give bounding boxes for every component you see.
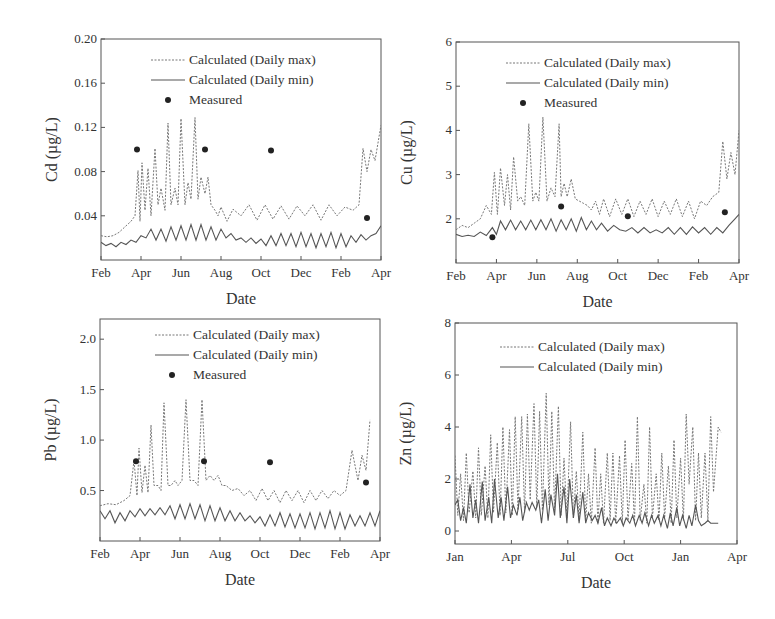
- legend-label: Measured: [193, 367, 246, 382]
- measured-point: [558, 203, 564, 209]
- y-tick-label: 2: [445, 471, 452, 486]
- y-tick-label: 2: [446, 211, 453, 226]
- legend-item: Calculated (Daily min): [151, 72, 313, 87]
- legend-label: Calculated (Daily min): [538, 359, 662, 374]
- x-tick-label: Dec: [291, 265, 312, 280]
- x-tick-label: Apr: [371, 265, 392, 280]
- x-tick-label: Apr: [131, 265, 152, 280]
- y-tick-label: 5: [446, 78, 453, 93]
- y-tick-label: 8: [445, 315, 452, 330]
- legend-item: Calculated (Daily max): [155, 327, 320, 342]
- measured-point: [268, 148, 274, 154]
- x-tick-label: Dec: [290, 546, 311, 561]
- x-tick-label: Apr: [501, 549, 522, 564]
- legend-label: Calculated (Daily max): [544, 55, 671, 70]
- y-tick-label: 6: [445, 367, 452, 382]
- x-tick-label: Aug: [209, 546, 232, 561]
- x-tick-label: Jun: [171, 546, 190, 561]
- legend-item: Calculated (Daily min): [155, 347, 317, 362]
- measured-point: [134, 147, 140, 153]
- x-tick-label: Oct: [252, 265, 271, 280]
- x-tick-label: Feb: [689, 268, 709, 283]
- y-tick-label: 4: [445, 419, 452, 434]
- y-tick-label: 2.0: [80, 331, 96, 346]
- x-tick-label: Feb: [330, 546, 350, 561]
- measured-point: [364, 215, 370, 221]
- legend-item: Measured: [169, 367, 246, 382]
- x-tick-label: Jun: [172, 265, 191, 280]
- x-tick-label: Feb: [331, 265, 351, 280]
- legend-item: Measured: [520, 95, 597, 110]
- legend-label: Calculated (Daily max): [538, 339, 665, 354]
- legend-item: Measured: [165, 92, 242, 107]
- x-tick-label: Jan: [446, 549, 464, 564]
- y-tick-label: 6: [446, 34, 453, 49]
- y-axis-label: Zn (µg/L): [397, 402, 415, 466]
- y-tick-label: 4: [446, 122, 453, 137]
- measured-point: [722, 209, 728, 215]
- x-tick-label: Apr: [370, 546, 391, 561]
- x-tick-label: Oct: [608, 268, 627, 283]
- x-tick-label: Aug: [210, 265, 233, 280]
- legend-item: Calculated (Daily min): [506, 75, 668, 90]
- measured-point: [363, 479, 369, 485]
- daily-max-line: [100, 400, 370, 506]
- x-tick-label: Apr: [727, 549, 748, 564]
- x-tick-label: Oct: [615, 549, 634, 564]
- y-tick-label: 0.12: [74, 119, 97, 134]
- legend-label: Calculated (Daily min): [544, 75, 668, 90]
- y-tick-label: 1.0: [80, 432, 96, 447]
- legend-label: Calculated (Daily max): [193, 327, 320, 342]
- legend-label: Measured: [189, 92, 242, 107]
- legend-label: Measured: [544, 95, 597, 110]
- daily-max-line: [456, 117, 739, 230]
- x-axis-label: Date: [581, 574, 611, 591]
- y-tick-label: 3: [446, 167, 453, 182]
- legend-item: Calculated (Daily max): [506, 55, 671, 70]
- y-tick-label: 1.5: [80, 382, 96, 397]
- measured-point: [267, 459, 273, 465]
- x-tick-label: Apr: [486, 268, 507, 283]
- x-tick-label: Jun: [528, 268, 547, 283]
- measured-point: [133, 458, 139, 464]
- y-tick-label: 0.04: [74, 208, 97, 223]
- daily-max-line: [455, 393, 721, 523]
- chart-cu: 23456FebAprJunAugOctDecFebAprDateCu (µg/…: [398, 34, 750, 310]
- daily-min-line: [100, 504, 380, 529]
- legend-label: Calculated (Daily max): [189, 52, 316, 67]
- x-tick-label: Feb: [90, 546, 110, 561]
- x-tick-label: Apr: [130, 546, 151, 561]
- measured-point: [489, 234, 495, 240]
- y-axis-label: Cd (µg/L): [43, 117, 61, 182]
- y-tick-label: 0.16: [74, 75, 97, 90]
- legend-label: Calculated (Daily min): [193, 347, 317, 362]
- x-tick-label: Feb: [91, 265, 111, 280]
- x-tick-label: Aug: [566, 268, 589, 283]
- x-axis-label: Date: [582, 293, 612, 310]
- x-tick-label: Jul: [560, 549, 576, 564]
- measured-point: [201, 458, 207, 464]
- x-tick-label: Dec: [648, 268, 669, 283]
- daily-max-line: [101, 118, 381, 237]
- legend-item: Calculated (Daily max): [500, 339, 665, 354]
- chart-pb: 0.51.01.52.0FebAprJunAugOctDecFebAprDate…: [42, 319, 391, 588]
- legend-label: Calculated (Daily min): [189, 72, 313, 87]
- daily-min-line: [101, 225, 381, 248]
- x-tick-label: Apr: [729, 268, 750, 283]
- y-tick-label: 0: [445, 523, 452, 538]
- chart-zn: 02468JanAprJulOctJanAprDateZn (µg/L)Calc…: [397, 315, 748, 591]
- y-tick-label: 0.08: [74, 164, 97, 179]
- measured-point: [202, 147, 208, 153]
- measured-point: [625, 213, 631, 219]
- chart-figure: 0.040.080.120.160.20FebAprJunAugOctDecFe…: [0, 0, 775, 619]
- y-tick-label: 0.20: [74, 31, 97, 46]
- x-tick-label: Feb: [446, 268, 466, 283]
- x-tick-label: Jan: [672, 549, 690, 564]
- x-axis-label: Date: [226, 290, 256, 307]
- y-axis-label: Pb (µg/L): [42, 399, 60, 462]
- y-axis-label: Cu (µg/L): [398, 120, 416, 185]
- daily-min-line: [456, 214, 739, 236]
- y-tick-label: 0.5: [80, 483, 96, 498]
- chart-cd: 0.040.080.120.160.20FebAprJunAugOctDecFe…: [43, 31, 392, 307]
- legend-item: Calculated (Daily min): [500, 359, 662, 374]
